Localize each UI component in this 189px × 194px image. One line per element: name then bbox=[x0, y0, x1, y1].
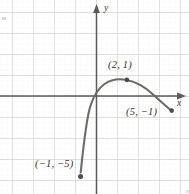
point-marker-vertex bbox=[125, 78, 130, 83]
y-axis-label: y bbox=[104, 3, 108, 13]
graph-figure: (2, 1) (5, −1) (−1, −5) y x bbox=[0, 0, 189, 194]
annotation-right-endpoint-label: (5, −1) bbox=[126, 106, 157, 117]
point-marker-right-endpoint bbox=[169, 108, 174, 113]
coordinate-plane bbox=[0, 0, 189, 194]
annotation-vertex-label: (2, 1) bbox=[108, 59, 132, 70]
scan-artifact bbox=[186, 190, 189, 193]
x-axis-label: x bbox=[177, 98, 181, 108]
point-marker-left-endpoint bbox=[78, 174, 83, 179]
annotation-left-endpoint-label: (−1, −5) bbox=[35, 158, 74, 169]
scan-artifact bbox=[2, 17, 6, 20]
